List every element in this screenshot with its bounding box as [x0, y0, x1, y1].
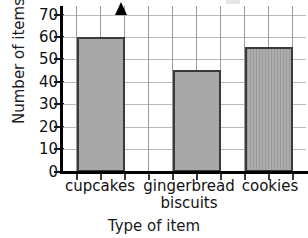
category-label-cookies: cookies: [232, 178, 308, 195]
x-axis-line: [60, 171, 308, 174]
y-tick-label-70: 70: [24, 8, 58, 23]
y-tick-label-60: 60: [24, 30, 58, 45]
gridline-v-4: [148, 6, 149, 172]
bar-cupcakes: [77, 37, 125, 172]
y-tick-label-30: 30: [24, 97, 58, 112]
y-tick-label-50: 50: [24, 52, 58, 67]
cropped-title-sliver: [226, 0, 240, 4]
category-label-biscuits: biscuits: [137, 195, 241, 212]
y-tick-label-10: 10: [24, 142, 58, 157]
category-label-gingerbread: gingerbread: [137, 178, 241, 195]
y-axis-arrow-icon: [115, 2, 127, 15]
bar-cookies: [245, 47, 293, 172]
category-label-cupcakes: cupcakes: [52, 178, 148, 195]
bar-gingerbread-biscuits: [173, 70, 221, 172]
plot-area: [63, 14, 306, 172]
y-tick-label-20: 20: [24, 120, 58, 135]
bar-chart: Number of items 0 10 20 30 40 50 60 70: [0, 0, 308, 238]
y-axis-line: [60, 6, 63, 173]
x-axis-category-labels: cupcakes gingerbread biscuits cookies: [0, 178, 308, 222]
x-axis-title: Type of item: [0, 217, 308, 235]
y-tick-label-40: 40: [24, 75, 58, 90]
